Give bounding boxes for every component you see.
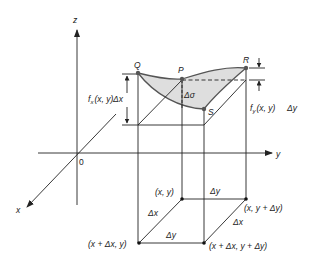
surface-area-label: Δσ	[183, 90, 196, 100]
point-R	[244, 66, 248, 70]
edge-left-dx-label: Δx	[147, 208, 159, 218]
z-axis-label: z	[72, 15, 78, 25]
axes	[27, 30, 272, 207]
left-delta-x-label: Δx	[112, 94, 124, 104]
corner-x-ydy-label: (x, y + Δy)	[244, 203, 283, 213]
base-point-xdx-y	[137, 241, 141, 245]
point-P	[180, 77, 184, 81]
right-delta-y-label: Δy	[286, 103, 298, 113]
right-bracket	[249, 58, 265, 91]
origin-label: 0	[79, 157, 84, 167]
point-Q	[136, 71, 140, 75]
label-S: S	[208, 107, 214, 117]
base-point-xy	[180, 197, 184, 201]
base-point-xdx-ydy	[202, 241, 206, 245]
surface-area-diagram: z y x 0 Q P R S Δσ fx(x, y) Δx fy(x, y) …	[0, 0, 309, 259]
label-Q: Q	[134, 60, 141, 70]
surface-patch	[138, 68, 246, 109]
edge-back-dy-label: Δy	[209, 186, 221, 196]
label-R: R	[243, 55, 249, 65]
edge-front-dy-label: Δy	[165, 230, 177, 240]
fy-label: fy(x, y)	[250, 103, 275, 114]
left-bracket	[122, 74, 138, 125]
corner-xdx-ydy-label: (x + Δx, y + Δy)	[209, 241, 267, 251]
corner-xdx-y-label: (x + Δx, y)	[88, 239, 127, 249]
fx-label: fx(x, y)	[88, 94, 113, 105]
corner-xy-label: (x, y)	[155, 187, 174, 197]
x-axis-label: x	[15, 205, 21, 215]
base-point-x-ydy	[244, 197, 248, 201]
label-P: P	[178, 65, 184, 75]
y-axis-label: y	[275, 149, 281, 159]
x-axis	[27, 114, 116, 207]
edge-right-dx-label: Δx	[232, 217, 244, 227]
point-S	[202, 107, 206, 111]
